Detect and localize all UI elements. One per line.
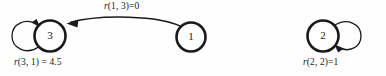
edge-label-r-1-3: r(1, 3)=0 <box>104 1 139 11</box>
state-transition-diagram: 3 1 2 r(1, 3)=0 r(3, 1) = 4.5 r(2, 2)=1 <box>0 0 386 76</box>
edge-label-r-2-2: r(2, 2)=1 <box>303 57 338 67</box>
node-2[interactable]: 2 <box>308 21 339 52</box>
node-1[interactable]: 1 <box>177 23 206 52</box>
edge-1-to-3-arrowhead <box>67 20 79 28</box>
edge-1-to-3-group <box>67 17 182 27</box>
node-2-label: 2 <box>320 29 326 41</box>
edge-label-r-2-2-rest: (2, 2)=1 <box>307 57 339 67</box>
edge-label-r-1-3-rest: (1, 3)=0 <box>108 1 140 11</box>
node-1-label: 1 <box>188 30 194 42</box>
edge-1-to-3-path <box>70 17 181 26</box>
edge-label-r-3-1-rest: (3, 1) = 4.5 <box>18 57 62 67</box>
edge-label-r-3-1: r(3, 1) = 4.5 <box>14 57 62 67</box>
node-3-label: 3 <box>47 29 53 41</box>
node-3[interactable]: 3 <box>35 21 66 52</box>
